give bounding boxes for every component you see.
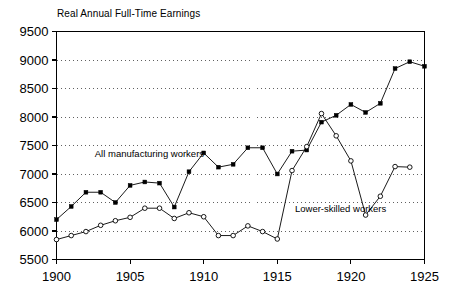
data-point-marker <box>260 229 265 234</box>
data-point-marker <box>54 237 59 242</box>
chart-container: Real Annual Full-Time Earnings 550060006… <box>0 0 450 299</box>
data-point-marker <box>290 149 294 153</box>
data-point-marker <box>290 168 295 173</box>
data-point-marker <box>143 180 147 184</box>
data-point-marker <box>143 206 148 211</box>
data-point-marker <box>423 64 427 68</box>
data-point-marker <box>378 194 383 199</box>
data-point-marker <box>84 190 88 194</box>
data-series-1 <box>55 60 427 222</box>
data-point-marker <box>128 215 133 220</box>
data-point-marker <box>99 190 103 194</box>
data-point-marker <box>157 206 162 211</box>
series-label-1: All manufacturing workers <box>95 148 205 159</box>
data-point-marker <box>172 216 177 221</box>
data-point-marker <box>275 172 279 176</box>
data-point-marker <box>349 103 353 107</box>
data-point-marker <box>69 233 74 238</box>
data-point-marker <box>393 164 398 169</box>
data-point-marker <box>158 181 162 185</box>
data-point-marker <box>408 60 412 64</box>
y-axis-ticks-group: 550060006500700075008000850090009500 <box>20 24 57 267</box>
x-axis-ticks-group: 190019051910191519201925 <box>42 260 439 284</box>
data-point-marker <box>217 165 221 169</box>
data-point-marker <box>378 101 382 105</box>
y-axis-tick-label: 8000 <box>20 110 49 125</box>
y-axis-tick-label: 6000 <box>20 224 49 239</box>
y-axis-tick-label: 9500 <box>20 24 49 39</box>
data-point-marker <box>187 210 192 215</box>
y-axis-tick-label: 7500 <box>20 138 49 153</box>
data-point-marker <box>246 224 251 229</box>
data-point-marker <box>334 113 338 117</box>
data-point-marker <box>304 144 309 149</box>
data-point-marker <box>55 218 59 222</box>
data-point-marker <box>201 214 206 219</box>
data-point-marker <box>128 184 132 188</box>
x-axis-tick-label: 1905 <box>116 269 145 284</box>
data-point-marker <box>334 134 339 139</box>
data-point-marker <box>393 67 397 71</box>
x-axis-tick-label: 1910 <box>189 269 218 284</box>
data-series-2 <box>54 111 412 242</box>
data-point-marker <box>407 165 412 170</box>
y-axis-tick-label: 9000 <box>20 53 49 68</box>
data-point-marker <box>84 229 89 234</box>
data-point-marker <box>172 205 176 209</box>
data-point-marker <box>246 146 250 150</box>
y-axis-tick-label: 5500 <box>20 252 49 267</box>
x-axis-tick-label: 1925 <box>410 269 439 284</box>
data-point-marker <box>98 223 103 228</box>
y-axis-tick-label: 7000 <box>20 167 49 182</box>
series-annotations-layer: All manufacturing workersLower-skilled w… <box>95 148 387 214</box>
data-point-marker <box>320 120 324 124</box>
data-point-marker <box>69 205 73 209</box>
data-point-marker <box>187 170 191 174</box>
data-point-marker <box>231 162 235 166</box>
x-axis-tick-label: 1915 <box>263 269 292 284</box>
data-point-marker <box>364 111 368 115</box>
y-axis-tick-label: 6500 <box>20 195 49 210</box>
data-point-marker <box>113 218 118 223</box>
series-label-2: Lower-skilled workers <box>295 203 387 214</box>
data-point-marker <box>216 233 221 238</box>
chart-plot-area: 550060006500700075008000850090009500 190… <box>0 0 450 299</box>
data-point-marker <box>349 159 354 164</box>
data-point-marker <box>231 233 236 238</box>
data-point-marker <box>113 201 117 205</box>
data-point-marker <box>275 237 280 242</box>
y-axis-tick-label: 8500 <box>20 81 49 96</box>
x-axis-tick-label: 1900 <box>42 269 71 284</box>
data-point-marker <box>319 111 324 116</box>
x-axis-tick-label: 1920 <box>336 269 365 284</box>
data-point-marker <box>261 146 265 150</box>
